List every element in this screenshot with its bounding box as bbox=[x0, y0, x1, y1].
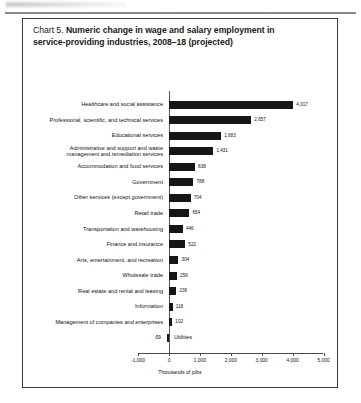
bar-value-label: 118 bbox=[176, 304, 183, 310]
category-label: Information bbox=[23, 303, 163, 309]
plot-area: Thousands of jobs Healthcare and social … bbox=[23, 19, 337, 387]
x-axis-tick-label: 2,000 bbox=[225, 358, 237, 363]
category-label: Real estate and rental and leasing bbox=[23, 288, 163, 294]
bar-value-label: 4,017 bbox=[296, 102, 308, 108]
x-axis-tick bbox=[262, 353, 263, 356]
bar-value-label: 446 bbox=[186, 226, 194, 232]
category-label: Utilities bbox=[174, 334, 337, 340]
category-label: Finance and insurance bbox=[23, 241, 163, 247]
bar-row: Government788 bbox=[23, 177, 337, 189]
x-axis-tick-label: 1,000 bbox=[194, 358, 206, 363]
category-label: Management of companies and enterprises bbox=[23, 319, 163, 325]
bar-value-label: 522 bbox=[188, 242, 196, 248]
bar-row: Wholesale trade256 bbox=[23, 270, 337, 282]
bar-value-label: 256 bbox=[180, 273, 188, 279]
chart-panel: Chart 5. Numeric change in wage and sala… bbox=[22, 18, 338, 388]
category-label: Professional, scientific, and technical … bbox=[23, 117, 163, 123]
bar bbox=[167, 334, 169, 342]
bar-row: Accommodation and food services838 bbox=[23, 161, 337, 173]
bar-row: Retail trade654 bbox=[23, 208, 337, 220]
category-label: Healthcare and social assistance bbox=[23, 101, 163, 107]
category-label: Administrative and support and wastemana… bbox=[23, 145, 163, 157]
bar bbox=[169, 256, 178, 264]
x-axis-tick-label: 0 bbox=[168, 358, 171, 363]
x-axis-tick-label: 3,000 bbox=[256, 358, 268, 363]
category-label: Retail trade bbox=[23, 210, 163, 216]
bar bbox=[169, 225, 183, 233]
bar-row: Educational services1,683 bbox=[23, 130, 337, 142]
bar bbox=[169, 178, 193, 186]
bar-row: Management of companies and enterprises1… bbox=[23, 317, 337, 329]
bar-value-label: 1,431 bbox=[216, 148, 228, 154]
x-axis-tick bbox=[169, 353, 170, 356]
category-label: Arts, entertainment, and recreation bbox=[23, 257, 163, 263]
bar bbox=[169, 209, 189, 217]
x-axis-tick-label: 5,000 bbox=[317, 358, 329, 363]
category-label: Accommodation and food services bbox=[23, 163, 163, 169]
x-axis-tick bbox=[293, 353, 294, 356]
bar-row: Administrative and support and wastemana… bbox=[23, 146, 337, 158]
bar bbox=[169, 116, 251, 124]
bar-value-label: 102 bbox=[175, 319, 183, 325]
x-axis-tick-label: -1,000 bbox=[131, 358, 145, 363]
x-axis-tick-label: 4,000 bbox=[286, 358, 298, 363]
x-axis-tick bbox=[200, 353, 201, 356]
bar bbox=[169, 303, 173, 311]
bar-row: Healthcare and social assistance4,017 bbox=[23, 99, 337, 111]
bar-value-label: 1,683 bbox=[224, 133, 236, 139]
bar-value-label: 236 bbox=[179, 288, 187, 294]
category-label: Educational services bbox=[23, 132, 163, 138]
bar-row: Finance and insurance522 bbox=[23, 239, 337, 251]
bar-row: Other services (except government)704 bbox=[23, 192, 337, 204]
x-axis-tick bbox=[324, 353, 325, 356]
bar bbox=[169, 240, 185, 248]
bar-row: Real estate and rental and leasing236 bbox=[23, 286, 337, 298]
bar bbox=[169, 163, 195, 171]
bar bbox=[169, 101, 293, 109]
category-label: Wholesale trade bbox=[23, 272, 163, 278]
page-rule bbox=[5, 12, 356, 14]
bar-value-label: 704 bbox=[194, 195, 202, 201]
bar-value-label: 788 bbox=[197, 179, 205, 185]
bar bbox=[169, 318, 172, 326]
bar-row: Utilities-59 bbox=[23, 332, 337, 344]
bar bbox=[169, 272, 177, 280]
bar-value-label: 838 bbox=[198, 164, 206, 170]
x-axis-tick bbox=[138, 353, 139, 356]
bar-value-label: 304 bbox=[182, 257, 190, 263]
bar-row: Information118 bbox=[23, 301, 337, 313]
bar-value-label: 2,657 bbox=[254, 117, 266, 123]
category-label: Government bbox=[23, 179, 163, 185]
bar-row: Arts, entertainment, and recreation304 bbox=[23, 255, 337, 267]
bar bbox=[169, 132, 221, 140]
x-axis-title: Thousands of jobs bbox=[23, 369, 337, 375]
bar bbox=[169, 194, 191, 202]
category-label: Other services (except government) bbox=[23, 194, 163, 200]
bar-row: Professional, scientific, and technical … bbox=[23, 115, 337, 127]
bar-value-label: 654 bbox=[192, 210, 200, 216]
bar bbox=[169, 287, 176, 295]
x-axis-tick bbox=[231, 353, 232, 356]
bar-value-label: -59 bbox=[154, 335, 161, 341]
category-label: Transportation and warehousing bbox=[23, 226, 163, 232]
bar bbox=[169, 147, 213, 155]
scan-artifact-smudge bbox=[6, 2, 126, 7]
bar-row: Transportation and warehousing446 bbox=[23, 223, 337, 235]
